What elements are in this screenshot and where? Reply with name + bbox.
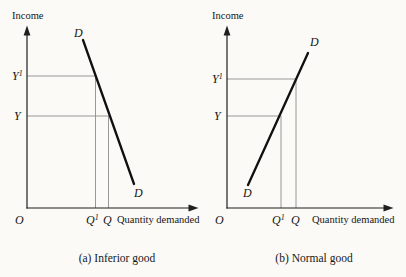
panel-a-origin-label: O bbox=[15, 213, 24, 227]
panel-a-x-axis-arrow-icon bbox=[189, 205, 199, 212]
panel-b-demand-curve bbox=[248, 53, 308, 185]
panel-a-y-axis-label: Income bbox=[12, 10, 44, 21]
panel-b-q-label: Q bbox=[291, 213, 300, 227]
panel-b-caption: (b) Normal good bbox=[275, 252, 353, 265]
figure-canvas: Income D D Y1 Y O Q1 Q Quantity demanded… bbox=[0, 0, 406, 277]
panel-b-origin-label: O bbox=[215, 213, 224, 227]
panel-normal-good: Income D D Y1 Y O Q1 Q Quantity demanded… bbox=[212, 10, 395, 265]
panel-inferior-good: Income D D Y1 Y O Q1 Q Quantity demanded… bbox=[12, 10, 200, 265]
panel-b-curve-label-bottom: D bbox=[242, 186, 252, 200]
panel-a-x-axis-label: Quantity demanded bbox=[117, 214, 200, 225]
panel-a-y-axis-arrow-icon bbox=[24, 26, 31, 36]
panel-a-y1-label: Y1 bbox=[12, 69, 23, 84]
panel-b-y-label: Y bbox=[214, 109, 222, 123]
panel-b-y1-label: Y1 bbox=[212, 72, 223, 87]
panel-b-x-axis-label: Quantity demanded bbox=[312, 214, 395, 225]
figure-page: Income D D Y1 Y O Q1 Q Quantity demanded… bbox=[0, 0, 406, 277]
panel-b-curve-label-top: D bbox=[309, 35, 319, 49]
panel-a-q1-label: Q1 bbox=[86, 213, 99, 228]
panel-a-curve-label-bottom: D bbox=[133, 186, 143, 200]
panel-a-caption: (a) Inferior good bbox=[79, 252, 156, 265]
panel-a-q-label: Q bbox=[103, 213, 112, 227]
panel-b-y-axis-arrow-icon bbox=[224, 26, 231, 36]
panel-b-y-axis-label: Income bbox=[212, 10, 244, 21]
panel-a-curve-label-top: D bbox=[73, 26, 83, 40]
panel-a-y-label: Y bbox=[14, 109, 22, 123]
panel-b-x-axis-arrow-icon bbox=[384, 205, 394, 212]
panel-b-q1-label: Q1 bbox=[272, 213, 285, 228]
